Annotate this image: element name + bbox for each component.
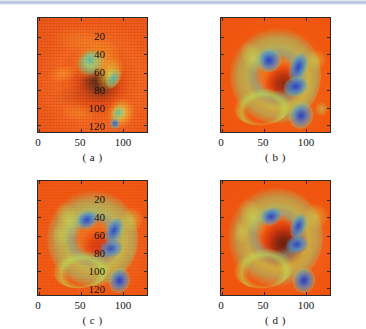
panel-d-ytick-1: 20 bbox=[79, 194, 105, 205]
panel-b-heatmap bbox=[221, 18, 330, 132]
panel-c-xtick-3: 100 bbox=[110, 300, 136, 311]
panel-d-heatmap bbox=[221, 181, 330, 295]
panel-d-ytick-6: 120 bbox=[79, 284, 105, 295]
panel-b-plot-box bbox=[220, 17, 331, 133]
panel-d-xtick-1: 0 bbox=[208, 300, 234, 311]
panel-b-ytick-6: 120 bbox=[79, 121, 105, 132]
panel-d-ytick-5: 100 bbox=[79, 266, 105, 277]
panel-b-ytick-1: 20 bbox=[79, 31, 105, 42]
panel-c-xtick-2: 50 bbox=[67, 300, 93, 311]
panel-b-xtick-2: 50 bbox=[250, 137, 276, 148]
panel-d-plot-box bbox=[220, 180, 331, 296]
panel-b-ytick-5: 100 bbox=[79, 103, 105, 114]
panel-b-ytick-4: 80 bbox=[79, 85, 105, 96]
panel-b-ytick-2: 40 bbox=[79, 49, 105, 60]
panel-d-xtick-3: 100 bbox=[293, 300, 319, 311]
panel-a-caption: ( a ) bbox=[37, 151, 148, 163]
panel-d-ytick-4: 80 bbox=[79, 248, 105, 259]
panel-b-xtick-1: 0 bbox=[208, 137, 234, 148]
panel-d-ytick-2: 40 bbox=[79, 212, 105, 223]
panel-d-xtick-2: 50 bbox=[250, 300, 276, 311]
figure-2x2-heatmap-grid: 20 40 60 80 100 120 0 50 100 ( a ) bbox=[0, 5, 366, 329]
bottom-caption-clipped bbox=[8, 320, 358, 329]
panel-b-caption: ( b ) bbox=[220, 151, 331, 163]
panel-a-xtick-1: 0 bbox=[25, 137, 51, 148]
panel-c-xtick-1: 0 bbox=[25, 300, 51, 311]
panel-b-ytick-3: 60 bbox=[79, 67, 105, 78]
panel-b-xtick-3: 100 bbox=[293, 137, 319, 148]
panel-d-ytick-3: 60 bbox=[79, 230, 105, 241]
panel-a-xtick-3: 100 bbox=[110, 137, 136, 148]
panel-a-xtick-2: 50 bbox=[67, 137, 93, 148]
